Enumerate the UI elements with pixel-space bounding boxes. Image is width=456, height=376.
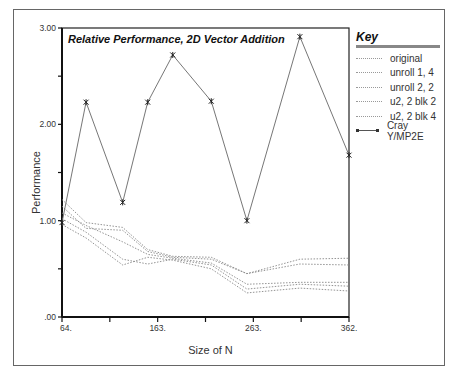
legend-label: unroll 2, 2 <box>390 82 434 93</box>
series-line <box>62 206 349 273</box>
legend-item: unroll 1, 4 <box>356 66 440 81</box>
x-tick-label: 263. <box>245 323 262 333</box>
legend-title: Key <box>356 30 440 48</box>
star-marker-icon <box>244 218 249 224</box>
legend-label: original <box>390 53 422 64</box>
star-line-swatch-icon <box>356 130 379 131</box>
star-marker-icon <box>209 98 214 104</box>
series-line <box>62 213 349 284</box>
star-marker-icon <box>145 99 150 105</box>
legend-item: unroll 2, 2 <box>356 80 440 95</box>
star-marker-icon <box>297 34 302 40</box>
y-tick-label: 1.00 <box>39 216 56 226</box>
dotted-line-swatch-icon <box>356 101 382 102</box>
legend-item: Cray Y/MP2E <box>356 124 440 139</box>
dotted-line-swatch-icon <box>356 72 382 73</box>
y-axis-label: Performance <box>30 151 42 214</box>
legend-item: original <box>356 51 440 66</box>
legend-item: u2, 2 blk 2 <box>356 95 440 110</box>
x-axis-label: Size of N <box>188 344 233 356</box>
x-tick-label: 64. <box>60 323 72 333</box>
star-marker-icon <box>84 99 89 105</box>
x-tick-label: 163. <box>149 323 166 333</box>
dotted-line-swatch-icon <box>356 87 382 88</box>
chart-title: Relative Performance, 2D Vector Addition <box>68 33 285 45</box>
star-marker-icon <box>347 152 352 158</box>
dotted-line-swatch-icon <box>356 58 382 59</box>
dotted-line-swatch-icon <box>356 116 382 117</box>
y-tick-label: 3.00 <box>39 23 56 33</box>
star-marker-icon <box>60 220 65 226</box>
legend-label: u2, 2 blk 2 <box>390 96 436 107</box>
y-tick-label: 2.00 <box>39 119 56 129</box>
star-marker-icon <box>120 199 125 205</box>
series-line-cray <box>62 37 349 223</box>
legend: Key originalunroll 1, 4unroll 2, 2u2, 2 … <box>356 30 440 138</box>
legend-label: Cray Y/MP2E <box>387 120 440 142</box>
y-tick-label: .00 <box>44 312 56 322</box>
plot-area <box>62 28 349 317</box>
legend-label: unroll 1, 4 <box>390 67 434 78</box>
star-marker-icon <box>170 52 175 58</box>
x-tick-label: 362. <box>341 323 358 333</box>
